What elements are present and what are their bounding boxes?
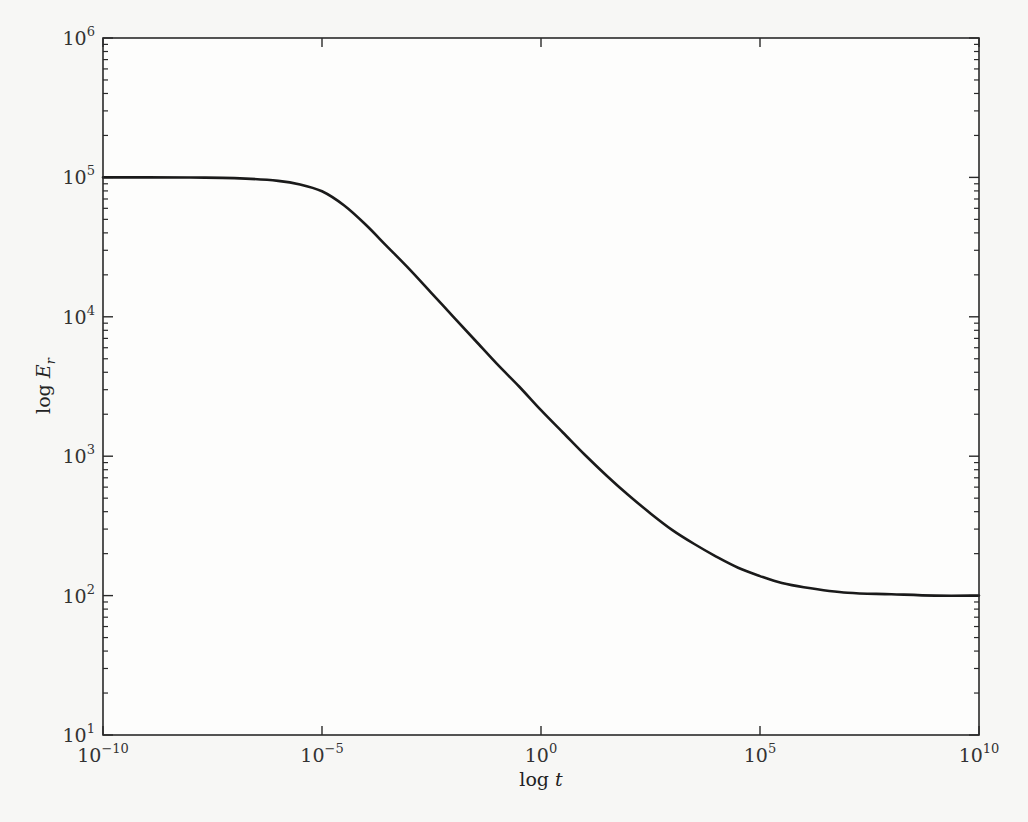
x-tick-label: 10−5 bbox=[300, 741, 343, 766]
x-tick-labels: 10−1010−51001051010 bbox=[77, 741, 999, 766]
x-axis-label: log t bbox=[519, 768, 563, 790]
chart: 10−1010−51001051010 101102103104105106 l… bbox=[0, 0, 1028, 822]
y-axis-label: log Er bbox=[32, 357, 58, 414]
y-tick-label: 101 bbox=[63, 721, 95, 746]
plot-background bbox=[103, 38, 979, 735]
y-tick-label: 105 bbox=[63, 163, 95, 188]
y-tick-label: 104 bbox=[63, 303, 95, 328]
x-tick-label: 100 bbox=[525, 741, 557, 766]
y-tick-labels: 101102103104105106 bbox=[63, 24, 95, 746]
y-tick-label: 103 bbox=[63, 442, 95, 467]
x-tick-label: 1010 bbox=[959, 741, 1000, 766]
y-tick-label: 102 bbox=[63, 582, 95, 607]
y-tick-label: 106 bbox=[63, 24, 95, 49]
x-tick-label: 105 bbox=[744, 741, 776, 766]
